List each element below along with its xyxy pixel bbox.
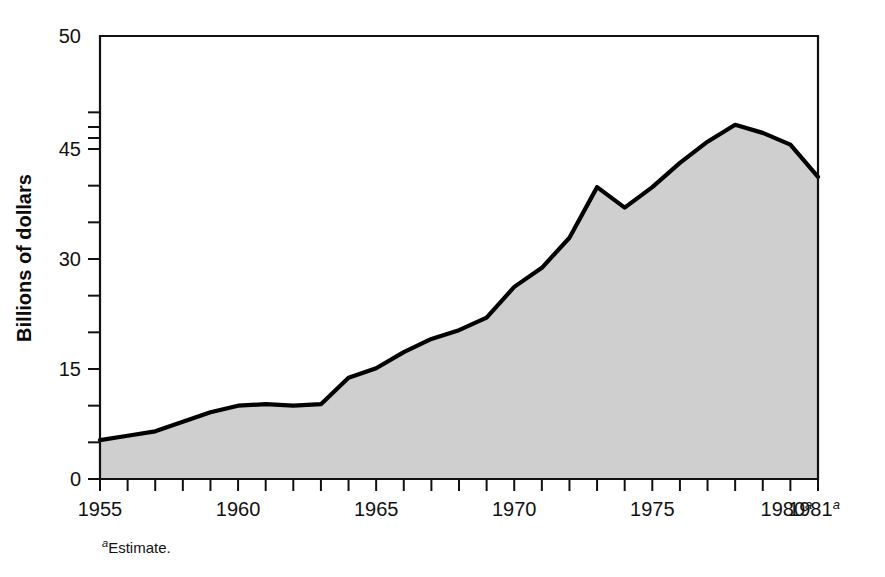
y-axis-tick-label: 15 xyxy=(59,358,81,380)
y-axis-tick-label: 30 xyxy=(59,248,81,270)
y-axis-tick-label: 50 xyxy=(59,25,81,47)
chart-figure: 015304550 195519601965197019751980a1981a… xyxy=(0,0,885,577)
x-axis-tick-label: 1960 xyxy=(216,498,261,520)
x-axis-tick-label: 1965 xyxy=(354,498,399,520)
x-axis-ticks xyxy=(100,479,818,491)
x-axis-tick-label: 1955 xyxy=(78,498,123,520)
x-axis-tick-label: 1970 xyxy=(492,498,537,520)
x-axis-tick-label: 1981a xyxy=(788,497,840,520)
y-axis-tick-label: 0 xyxy=(70,468,81,490)
area-chart: 015304550 195519601965197019751980a1981a… xyxy=(0,0,885,577)
y-axis-tick-labels: 015304550 xyxy=(59,25,81,490)
x-axis-tick-labels: 195519601965197019751980a1981a xyxy=(78,497,840,520)
x-axis-tick-label: 1975 xyxy=(630,498,675,520)
y-axis-tick-label: 45 xyxy=(59,138,81,160)
footnote: aEstimate. xyxy=(102,537,171,556)
y-axis-title: Billions of dollars xyxy=(13,174,35,342)
y-axis-ticks xyxy=(88,112,100,479)
footnote-text: aEstimate. xyxy=(102,537,171,556)
